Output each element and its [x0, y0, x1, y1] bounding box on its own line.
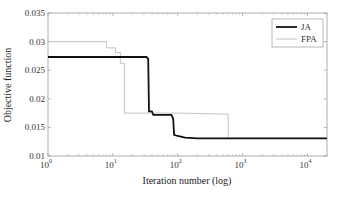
- x-tick-label: 102: [170, 158, 182, 170]
- legend-label: JA: [301, 22, 312, 32]
- x-tick-label: 103: [235, 158, 247, 170]
- x-tick-label: 101: [105, 158, 117, 170]
- series-lines: [48, 42, 327, 139]
- y-tick-label: 0.02: [29, 94, 45, 104]
- y-axis-label: Objective function: [2, 48, 13, 123]
- y-tick-label: 0.03: [29, 37, 45, 47]
- legend-label: FPA: [301, 34, 317, 44]
- x-tick-label: 104: [299, 158, 311, 170]
- series-ja: [48, 57, 327, 138]
- x-axis-label: Iteration number (log): [143, 175, 232, 187]
- legend: JAFPA: [272, 19, 323, 47]
- y-tick-label: 0.025: [25, 65, 46, 75]
- y-tick-label: 0.015: [25, 122, 46, 132]
- x-tick-label: 100: [40, 158, 52, 170]
- y-tick-label: 0.035: [25, 8, 46, 18]
- chart: 0.010.0150.020.0250.030.0351001011021031…: [0, 0, 339, 199]
